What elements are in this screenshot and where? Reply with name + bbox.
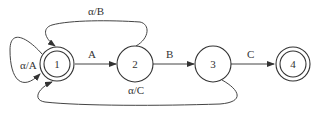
edge-2-1 — [46, 21, 148, 46]
edge-label-1-2: A — [88, 48, 96, 60]
diagram-svg: α/A A B C α/B α/C 1 2 3 4 — [0, 0, 319, 114]
edge-label-2-3: B — [166, 48, 173, 60]
state-node-2: 2 — [117, 46, 153, 82]
state-label-2: 2 — [132, 58, 138, 70]
state-node-4: 4 — [276, 47, 310, 81]
edge-label-3-1: α/C — [128, 84, 144, 96]
edge-label-2-1: α/B — [88, 5, 104, 17]
state-label-4: 4 — [290, 58, 296, 70]
state-node-3: 3 — [195, 46, 231, 82]
state-node-1: 1 — [40, 47, 74, 81]
edge-label-3-4: C — [247, 48, 254, 60]
state-label-3: 3 — [210, 58, 216, 70]
state-diagram: α/A A B C α/B α/C 1 2 3 4 — [0, 0, 319, 114]
state-label-1: 1 — [54, 58, 60, 70]
edge-label-1-1: α/A — [20, 59, 37, 71]
